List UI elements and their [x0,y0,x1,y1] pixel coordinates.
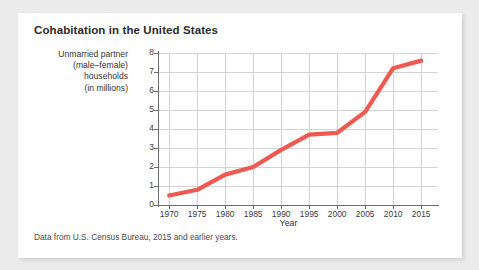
x-tick-mark [253,205,254,209]
y-tick-label: 4 [132,123,154,133]
y-tick-mark [154,148,158,149]
source-note: Data from U.S. Census Bureau, 2015 and e… [34,232,238,242]
plot-grid [158,53,438,205]
plot-area: 012345678 197019751980198519901995200020… [132,49,445,216]
x-tick-mark [281,205,282,209]
y-axis-label-line-4: (in millions) [18,83,128,94]
y-tick-mark [154,167,158,168]
y-tick-mark [154,53,158,54]
y-tick-label: 6 [132,85,154,95]
x-tick-mark [365,205,366,209]
x-tick-mark [393,205,394,209]
y-tick-mark [154,186,158,187]
y-tick-label: 2 [132,161,154,171]
page-title: Cohabitation in the United States [34,24,218,36]
x-tick-mark [197,205,198,209]
y-tick-mark [154,72,158,73]
y-tick-label: 1 [132,180,154,190]
y-tick-mark [154,91,158,92]
y-axis-label-line-3: households [18,71,128,82]
x-tick-mark [309,205,310,209]
y-axis-line [158,51,159,207]
x-tick-mark [169,205,170,209]
y-tick-label: 0 [132,199,154,209]
y-axis-label-line-2: (male–female) [18,60,128,71]
y-tick-mark [154,129,158,130]
x-axis-line [157,205,439,206]
y-tick-mark [154,205,158,206]
x-tick-mark [337,205,338,209]
chart-card: Cohabitation in the United States Unmarr… [18,13,462,258]
y-tick-label: 8 [132,47,154,57]
y-tick-mark [154,110,158,111]
x-tick-mark [225,205,226,209]
page-background: Cohabitation in the United States Unmarr… [0,0,479,270]
y-tick-label: 3 [132,142,154,152]
y-axis-label: Unmarried partner (male–female) househol… [18,49,128,94]
y-tick-label: 5 [132,104,154,114]
y-axis-label-line-1: Unmarried partner [18,49,128,60]
x-tick-mark [421,205,422,209]
x-axis-label: Year [132,218,445,228]
y-tick-label: 7 [132,66,154,76]
data-series-line [158,53,438,205]
